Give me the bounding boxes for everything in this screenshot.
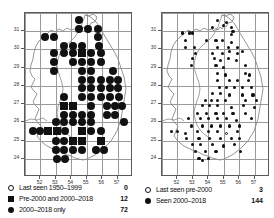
map-symbol-dot bbox=[222, 24, 225, 27]
map-symbol-dot bbox=[216, 19, 219, 22]
map-symbol-dot bbox=[251, 93, 254, 96]
map-symbol-dot bbox=[87, 58, 95, 66]
map-symbol-dot bbox=[87, 127, 95, 135]
map-symbol-dot bbox=[184, 46, 187, 49]
map-symbol-dot bbox=[118, 102, 126, 110]
map-symbol-dot bbox=[211, 143, 214, 146]
map-symbol-dot bbox=[194, 150, 197, 153]
map-symbol-dot bbox=[255, 99, 258, 102]
map-symbol-dot bbox=[228, 79, 231, 82]
map-symbol-dot bbox=[194, 52, 197, 55]
map-symbol-dot bbox=[78, 67, 86, 75]
legend-label: Pre-2000 and 2000–2018 bbox=[19, 193, 93, 204]
map-symbol-dot bbox=[97, 84, 105, 92]
axis-tick-label-y: 27 bbox=[7, 100, 19, 105]
map-symbol-square bbox=[78, 49, 86, 57]
map-symbol-dot bbox=[87, 102, 95, 110]
map-symbol-dot bbox=[69, 58, 77, 66]
map-symbol-dot bbox=[241, 93, 244, 96]
map-symbol-dot bbox=[92, 146, 100, 154]
axis-tick-label-y: 29 bbox=[7, 64, 19, 69]
map-symbol-dot bbox=[231, 112, 234, 115]
map-symbol-dot bbox=[233, 86, 236, 89]
map-symbol-dot bbox=[250, 86, 253, 89]
axis-tick-label-y: 30 bbox=[7, 45, 19, 50]
map-symbol-dot bbox=[204, 99, 207, 102]
axis-tickmark-y bbox=[21, 67, 24, 68]
map-symbol-dot bbox=[103, 111, 111, 119]
map-symbol-dot bbox=[120, 118, 128, 126]
map-symbol-dot bbox=[230, 41, 233, 44]
map-symbol-dot bbox=[50, 67, 58, 75]
map-symbol-dot bbox=[219, 92, 222, 95]
map-symbol-dot bbox=[191, 57, 194, 60]
map-symbol-dot bbox=[52, 146, 60, 154]
map-symbol-dot bbox=[211, 92, 214, 95]
map-symbol-dot bbox=[41, 33, 49, 41]
legend-count: 12 bbox=[112, 193, 128, 204]
map-symbol-dot bbox=[228, 93, 231, 96]
map-symbol-dot bbox=[225, 86, 228, 89]
map-symbol-dot bbox=[78, 58, 86, 66]
map-symbol-dot bbox=[106, 84, 114, 92]
map-symbol-dot bbox=[60, 49, 68, 57]
map-symbol-dot bbox=[211, 52, 214, 55]
map-symbol-dot bbox=[241, 50, 244, 53]
map-symbol-dot bbox=[50, 58, 58, 66]
map-symbol-dot bbox=[238, 137, 241, 140]
axis-tickmark-x bbox=[254, 176, 255, 179]
map-symbol-dot bbox=[216, 79, 219, 82]
map-symbol-dot bbox=[218, 86, 221, 89]
map-symbol-dot bbox=[97, 58, 105, 66]
map-symbol-dot bbox=[84, 25, 92, 33]
map-symbol-dot bbox=[87, 67, 95, 75]
map-symbol-dot bbox=[50, 49, 58, 57]
map-symbol-dot bbox=[227, 57, 230, 60]
legend-row: Last seen pre-2000 3 bbox=[145, 184, 270, 195]
axis-tickmark-y bbox=[158, 30, 161, 31]
legend-count: 144 bbox=[245, 195, 263, 206]
axis-tickmark-x bbox=[117, 176, 118, 179]
legend-left: Last seen 1950–1999 0 Pre-2000 and 2000–… bbox=[8, 182, 133, 215]
axis-tickmark-x bbox=[70, 176, 71, 179]
map-symbol-dot bbox=[87, 93, 95, 101]
legend-right: Last seen pre-2000 3 Seen 2000–2018 144 bbox=[145, 184, 270, 206]
map-symbol-dot bbox=[228, 124, 231, 127]
map-symbol-dot bbox=[196, 130, 199, 133]
map-symbol-dot bbox=[207, 157, 210, 160]
gridline-horizontal bbox=[162, 141, 268, 142]
axis-tick-label-y: 25 bbox=[7, 137, 19, 142]
map-symbol-dot bbox=[247, 79, 250, 82]
gridline-horizontal bbox=[162, 68, 268, 69]
map-symbol-dot bbox=[75, 16, 83, 24]
axis-tickmark-y bbox=[158, 85, 161, 86]
axis-tickmark-y bbox=[21, 48, 24, 49]
legend-label: Last seen 1950–1999 bbox=[19, 182, 82, 193]
map-symbol-square bbox=[69, 137, 77, 145]
axis-tickmark-y bbox=[158, 121, 161, 122]
filled-square-icon bbox=[8, 196, 14, 202]
map-symbol-dot bbox=[170, 130, 173, 133]
map-symbol-dot bbox=[216, 104, 219, 107]
map-symbol-dot bbox=[52, 118, 60, 126]
map-symbol-dot bbox=[97, 49, 105, 57]
axis-tick-label-y: 31 bbox=[7, 27, 19, 32]
map-symbol-dot bbox=[78, 84, 86, 92]
map-symbol-dot bbox=[201, 104, 204, 107]
figure-root: 3130292827262524525354555657 Last seen 1… bbox=[0, 0, 274, 218]
map-symbol-dot bbox=[199, 117, 202, 120]
map-symbol-dot bbox=[69, 118, 77, 126]
map-symbol-dot bbox=[230, 33, 233, 36]
axis-tickmark-x bbox=[101, 176, 102, 179]
map-symbol-dot bbox=[60, 93, 68, 101]
legend-row: Last seen 1950–1999 0 bbox=[8, 182, 133, 193]
map-symbol-dot bbox=[52, 137, 60, 145]
map-symbol-dot bbox=[231, 30, 234, 33]
map-symbol-dot bbox=[219, 59, 222, 62]
filled-circle-icon bbox=[145, 198, 151, 204]
axis-tickmark-x bbox=[192, 176, 193, 179]
legend-row: 2000–2018 only 72 bbox=[8, 204, 133, 215]
map-symbol-dot bbox=[103, 102, 111, 110]
map-symbol-dot bbox=[176, 130, 179, 133]
map-symbol-dot bbox=[190, 124, 193, 127]
